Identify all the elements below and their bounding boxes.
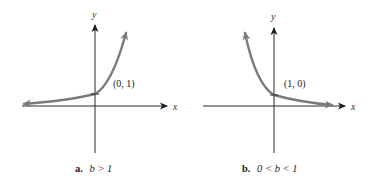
point-label: (0, 1) xyxy=(113,78,135,90)
y-axis-label: y xyxy=(91,9,97,20)
caption-letter: b. xyxy=(242,163,251,174)
point-label: (1, 0) xyxy=(284,78,306,90)
growth-curve-left xyxy=(24,94,95,104)
caption-a: a. b > 1 xyxy=(75,163,112,174)
x-axis-label: x xyxy=(172,101,178,112)
caption-letter: a. xyxy=(75,163,83,174)
caption-b: b. 0 < b < 1 xyxy=(242,163,298,174)
y-axis-label: y xyxy=(270,11,276,22)
decay-curve-left xyxy=(245,33,274,95)
caption-condition: b > 1 xyxy=(90,163,113,174)
panel-b-decay: y x (1, 0) b. 0 < b < 1 xyxy=(203,11,356,174)
exponential-graphs-figure: y x (0, 1) a. b > 1 y x (1, 0) b. 0 < b … xyxy=(0,0,375,187)
x-axis-label: x xyxy=(350,101,356,112)
panel-a-growth: y x (0, 1) a. b > 1 xyxy=(22,9,178,174)
decay-curve-right xyxy=(274,95,332,105)
caption-condition: 0 < b < 1 xyxy=(257,163,297,174)
